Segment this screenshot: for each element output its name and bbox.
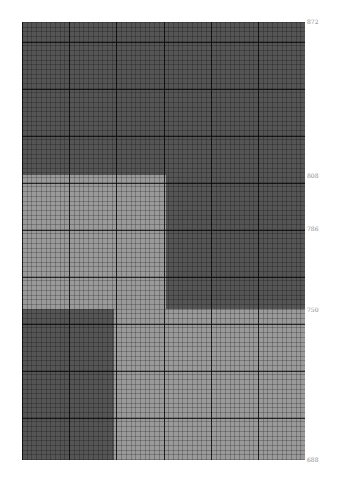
- y-tick-808: 808: [307, 172, 318, 180]
- region-top-band: [22, 22, 305, 175]
- region-right-dark: [166, 175, 305, 309]
- region-left-light: [22, 175, 166, 309]
- y-tick-750: 750: [307, 306, 318, 314]
- region-bottom-right-light: [114, 309, 305, 460]
- y-tick-872: 872: [307, 18, 318, 26]
- region-bottom-left-dark: [22, 309, 114, 460]
- plot-area: [22, 22, 305, 460]
- y-tick-786: 786: [307, 225, 318, 233]
- y-tick-688: 688: [307, 456, 318, 464]
